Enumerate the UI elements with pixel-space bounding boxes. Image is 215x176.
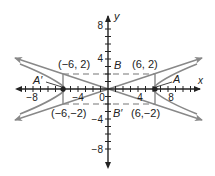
y-axis xyxy=(105,16,111,168)
hyperbola-diagram: y x −8 −4 0 4 8 8 4 −4 −8 (−6, 2) (6, 2)… xyxy=(0,0,215,176)
vertex-label-a: A xyxy=(172,73,180,85)
y-tick-label: 4 xyxy=(97,53,103,64)
x-tick-label: 8 xyxy=(168,92,174,103)
vertex-label-a-prime: A′ xyxy=(32,74,43,86)
x-tick-label: 4 xyxy=(137,92,143,103)
y-tick-label: 8 xyxy=(97,20,103,31)
x-tick-label: −4 xyxy=(72,92,84,103)
x-tick-label: 0 xyxy=(99,92,105,103)
y-tick-label: −8 xyxy=(92,144,104,155)
point-label-bottom-left: (−6,−2) xyxy=(51,107,86,119)
point-label-top-right: (6, 2) xyxy=(132,58,158,70)
x-axis-label: x xyxy=(197,75,204,86)
vertex-label-b: B xyxy=(114,59,121,71)
graph-canvas: y x −8 −4 0 4 8 8 4 −4 −8 (−6, 2) (6, 2)… xyxy=(0,0,215,176)
point-label-top-left: (−6, 2) xyxy=(58,58,90,70)
point-label-bottom-right: (6,−2) xyxy=(131,107,160,119)
y-tick-label: −4 xyxy=(92,114,104,125)
vertex-label-b-prime: B′ xyxy=(113,107,123,119)
y-axis-label: y xyxy=(113,10,121,22)
x-tick-label: −8 xyxy=(26,92,38,103)
